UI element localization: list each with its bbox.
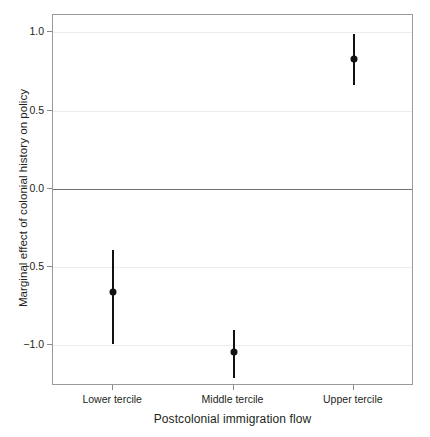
gridline <box>53 267 412 268</box>
y-tick-label: 0.5 <box>4 104 44 116</box>
point-estimate-dot <box>110 289 117 296</box>
x-tick-mark <box>233 385 234 390</box>
zero-reference-line <box>53 189 412 190</box>
gridline <box>53 111 412 112</box>
y-tick-label: 1.0 <box>4 25 44 37</box>
point-estimate-dot <box>230 348 237 355</box>
x-tick-label: Lower tercile <box>52 393 172 405</box>
plot-panel <box>52 14 413 385</box>
marginal-effect-chart: Marginal effect of colonial history on p… <box>0 0 430 437</box>
y-tick-label: 0.0 <box>4 182 44 194</box>
point-estimate-dot <box>350 55 357 62</box>
x-axis-title: Postcolonial immigration flow <box>52 412 413 426</box>
error-bar <box>112 250 114 344</box>
x-tick-mark <box>353 385 354 390</box>
y-axis-title: Marginal effect of colonial history on p… <box>14 8 32 388</box>
x-tick-mark <box>112 385 113 390</box>
gridline <box>53 32 412 33</box>
x-tick-label: Upper tercile <box>293 393 413 405</box>
x-tick-label: Middle tercile <box>173 393 293 405</box>
y-tick-label: −1.0 <box>4 338 44 350</box>
y-tick-label: −0.5 <box>4 260 44 272</box>
